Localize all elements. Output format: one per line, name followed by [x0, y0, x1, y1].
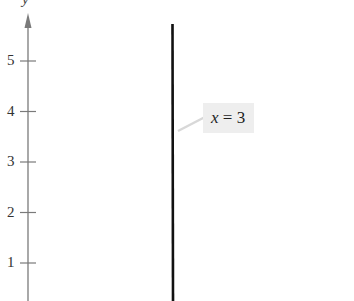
annotation-equation: = 3: [219, 108, 246, 127]
y-tick-label-1: 1: [7, 255, 15, 270]
annotation-label-x-equals-3: x = 3: [203, 103, 254, 133]
y-tick-label-2: 2: [7, 205, 15, 220]
series-line-x-equals-3: [173, 24, 174, 301]
annotation-variable: x: [211, 108, 219, 127]
y-tick-label-5: 5: [7, 53, 15, 68]
y-tick-label-4: 4: [7, 104, 15, 119]
y-tick-label-3: 3: [7, 154, 15, 169]
y-axis-arrow-icon: [25, 13, 32, 28]
y-axis-title: y: [22, 0, 29, 8]
chart-canvas: [0, 0, 354, 301]
annotation-leader-line: [178, 117, 205, 131]
